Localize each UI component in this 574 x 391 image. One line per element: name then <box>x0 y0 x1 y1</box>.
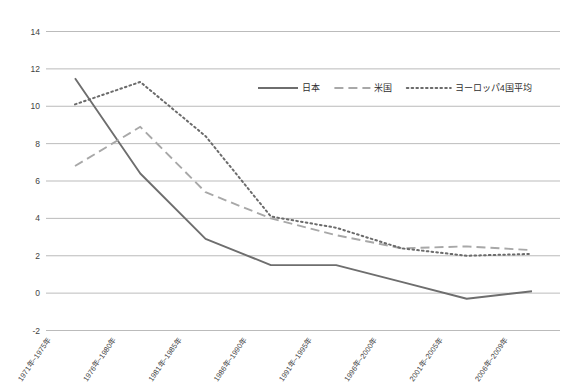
y-tick-label: 8 <box>35 139 40 149</box>
series-line-0 <box>75 78 532 299</box>
series-lines-group <box>75 78 532 299</box>
y-tick-label: 2 <box>35 251 40 261</box>
y-tick-label: 6 <box>35 176 40 186</box>
y-tick-label: 0 <box>35 288 40 298</box>
y-tick-label: -2 <box>32 326 40 336</box>
x-tick-label: 2006年~2009年 <box>473 335 510 383</box>
line-chart: 14121086420-2 1971年~1975年1976年~1980年1981… <box>0 0 574 391</box>
y-tick-label: 10 <box>31 101 41 111</box>
x-tick-label: 1976年~1980年 <box>81 335 118 383</box>
legend-label-1: 米国 <box>374 82 392 93</box>
chart-legend: 日本米国ヨーロッパ4国平均 <box>258 82 532 93</box>
series-line-2 <box>75 82 532 256</box>
x-tick-label: 1991年~1995年 <box>277 335 314 383</box>
y-axis-tick-labels: 14121086420-2 <box>31 27 41 336</box>
legend-label-2: ヨーロッパ4国平均 <box>455 82 532 93</box>
chart-canvas: 14121086420-2 1971年~1975年1976年~1980年1981… <box>0 0 574 391</box>
legend-label-0: 日本 <box>302 82 320 93</box>
gridlines-group <box>46 32 560 331</box>
y-tick-label: 4 <box>35 213 40 223</box>
x-tick-label: 1981年~1985年 <box>146 335 183 383</box>
x-tick-label: 1986年~1990年 <box>212 335 249 383</box>
y-tick-label: 12 <box>31 64 41 74</box>
x-tick-label: 2001年~2005年 <box>408 335 445 383</box>
series-line-1 <box>75 127 532 250</box>
x-tick-label: 1971年~1975年 <box>16 335 53 383</box>
y-tick-label: 14 <box>31 27 41 37</box>
x-axis-tick-labels: 1971年~1975年1976年~1980年1981年~1985年1986年~1… <box>16 335 510 383</box>
x-tick-label: 1996年~2000年 <box>342 335 379 383</box>
